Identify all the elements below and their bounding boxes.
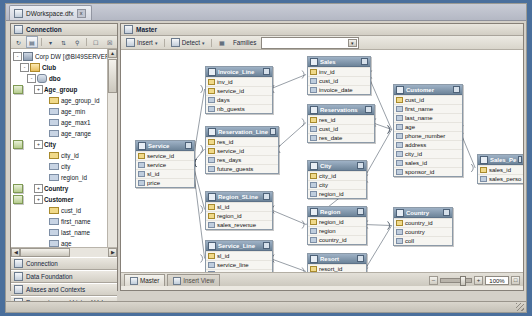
- table-field[interactable]: sales_id: [478, 165, 523, 174]
- tree-node[interactable]: +Age_group: [13, 84, 117, 95]
- table-field[interactable]: sales_revenue: [206, 220, 272, 229]
- table-header[interactable]: City: [308, 161, 366, 171]
- tree-expander[interactable]: +: [34, 195, 43, 204]
- diagram-table-region[interactable]: Regionregion_idregioncountry_id: [307, 206, 367, 245]
- zoom-slider-thumb[interactable]: [460, 276, 466, 286]
- tree-vertical-scrollbar[interactable]: ▲: [107, 49, 117, 247]
- table-field[interactable]: country: [394, 227, 452, 236]
- table-field[interactable]: cust_id: [308, 124, 374, 133]
- tree-node[interactable]: last_name: [13, 227, 117, 238]
- chevron-down-icon-2[interactable]: ▾: [202, 40, 205, 46]
- pin-icon[interactable]: [365, 106, 372, 113]
- table-field[interactable]: country_id: [394, 218, 452, 227]
- sort-icon[interactable]: ⇅: [58, 36, 69, 48]
- table-field[interactable]: age: [394, 122, 462, 131]
- table-field[interactable]: city_id: [394, 149, 462, 158]
- pin-icon[interactable]: [361, 58, 368, 65]
- diagram-table-region_sline[interactable]: Region_SLinesl_idregion_idsales_revenue: [205, 191, 273, 230]
- table-header[interactable]: Reservation_Line: [206, 127, 278, 137]
- table-field[interactable]: sl_id: [206, 202, 272, 211]
- diagram-table-service[interactable]: Serviceservice_idservicesl_idprice: [135, 140, 195, 188]
- table-field[interactable]: region_id: [308, 189, 366, 198]
- diagram-table-service_line[interactable]: Service_Linesl_idservice_lineresort_id: [205, 240, 273, 272]
- tree-node[interactable]: +Customer: [13, 194, 117, 205]
- table-header[interactable]: Sales: [308, 57, 370, 67]
- pin-icon[interactable]: [263, 193, 270, 200]
- pin-icon[interactable]: [518, 156, 522, 163]
- scroll-right-arrow[interactable]: ▶: [108, 248, 117, 257]
- table-header[interactable]: Country: [394, 208, 452, 218]
- accordion-item-connection[interactable]: Connection: [11, 257, 117, 270]
- table-field[interactable]: res_id: [206, 137, 278, 146]
- table-header[interactable]: Sales_Pe: [478, 155, 523, 165]
- table-header[interactable]: Service: [136, 141, 194, 151]
- diagram-table-sales_pe[interactable]: Sales_Pesales_idsales_perso: [477, 154, 523, 184]
- table-field[interactable]: service_line: [206, 260, 272, 269]
- table-field[interactable]: phone_number: [394, 131, 462, 140]
- filter-icon[interactable]: ▾: [45, 36, 56, 48]
- diagram-table-resort[interactable]: Resortresort_idresortcountry_id: [307, 253, 367, 272]
- accordion-item-data-foundation[interactable]: Data Foundation: [11, 270, 117, 283]
- detect-button[interactable]: Detect ▾: [169, 37, 207, 48]
- pin-icon[interactable]: [263, 68, 270, 75]
- pin-icon[interactable]: [270, 128, 276, 135]
- tree-horizontal-scrollbar[interactable]: ◀ ▶: [11, 247, 117, 257]
- pin-icon[interactable]: [357, 162, 364, 169]
- refresh-icon[interactable]: ↻: [13, 36, 24, 48]
- table-field[interactable]: invoice_date: [308, 85, 370, 94]
- table-header[interactable]: Region_SLine: [206, 192, 272, 202]
- accordion-item-aliases-and-contexts[interactable]: Aliases and Contexts: [11, 283, 117, 296]
- tree-expander[interactable]: +: [34, 85, 43, 94]
- table-field[interactable]: resort_id: [308, 264, 366, 272]
- diagram-table-city[interactable]: Citycity_idcityregion_id: [307, 160, 367, 199]
- table-field[interactable]: inv_id: [308, 67, 370, 76]
- table-field[interactable]: first_name: [394, 104, 462, 113]
- table-field[interactable]: region_id: [308, 217, 366, 226]
- tab-master[interactable]: Master: [124, 274, 165, 286]
- tree-node[interactable]: -dbo: [13, 73, 117, 84]
- table-field[interactable]: region: [308, 226, 366, 235]
- search-icon[interactable]: ⚲: [72, 36, 83, 48]
- scroll-left-arrow[interactable]: ◀: [11, 248, 20, 257]
- families-select[interactable]: ▾: [261, 37, 359, 49]
- table-field[interactable]: inv_id: [206, 77, 272, 86]
- tree-node[interactable]: age_min: [13, 106, 117, 117]
- tree-expander[interactable]: -: [13, 52, 22, 61]
- table-field[interactable]: service_id: [206, 86, 272, 95]
- data-foundation-canvas[interactable]: Serviceservice_idservicesl_idpriceInvoic…: [121, 50, 523, 272]
- pin-icon[interactable]: [185, 142, 192, 149]
- table-field[interactable]: sponsor_id: [394, 167, 462, 176]
- table-header[interactable]: Reservations: [308, 105, 374, 115]
- tree-node[interactable]: age_range: [13, 128, 117, 139]
- chevron-down-icon-3[interactable]: ▾: [348, 39, 357, 47]
- connection-tree[interactable]: ▲ -Corp DW [@BI49SERVER]-Club-dbo+Age_gr…: [11, 49, 117, 247]
- tree-expander[interactable]: -: [20, 63, 29, 72]
- tree-node[interactable]: city: [13, 161, 117, 172]
- table-field[interactable]: price: [136, 178, 194, 187]
- tree-node[interactable]: age_group_id: [13, 95, 117, 106]
- resize-grip[interactable]: [516, 303, 524, 311]
- hscroll-track[interactable]: [70, 248, 108, 257]
- diagram-table-reservation_line[interactable]: Reservation_Lineres_idservice_idres_days…: [205, 126, 279, 174]
- tab-insert-view[interactable]: Insert View: [167, 274, 220, 286]
- tree-expander[interactable]: +: [34, 140, 43, 149]
- table-field[interactable]: resort_id: [206, 269, 272, 272]
- zoom-fit-button[interactable]: □: [511, 276, 520, 285]
- table-field[interactable]: res_days: [206, 155, 278, 164]
- tree-expander[interactable]: -: [27, 74, 36, 83]
- table-field[interactable]: cust_id: [308, 76, 370, 85]
- tree-node[interactable]: first_name: [13, 216, 117, 227]
- table-header[interactable]: Resort: [308, 254, 366, 264]
- scroll-thumb[interactable]: [108, 59, 117, 93]
- tree-node[interactable]: age_max1: [13, 117, 117, 128]
- table-field[interactable]: cust_id: [394, 95, 462, 104]
- zoom-in-button[interactable]: +: [474, 276, 483, 285]
- table-field[interactable]: future_guests: [206, 164, 278, 173]
- chevron-down-icon[interactable]: ▾: [155, 40, 158, 46]
- diagram-table-sales[interactable]: Salesinv_idcust_idinvoice_date: [307, 56, 371, 95]
- table-field[interactable]: days: [206, 95, 272, 104]
- table-field[interactable]: res_date: [308, 133, 374, 142]
- collapse-icon[interactable]: ☒: [104, 36, 115, 48]
- table-field[interactable]: service_id: [206, 146, 278, 155]
- document-tab-dworkspace[interactable]: DWorkspace.dfx x: [9, 5, 92, 20]
